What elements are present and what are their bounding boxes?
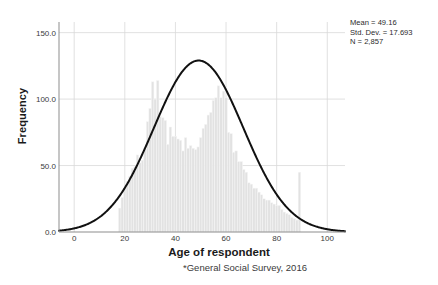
chart-footnote: *General Social Survey, 2016 bbox=[0, 262, 438, 273]
x-tick-label: 40 bbox=[171, 234, 180, 243]
sample-size-label: N = 2,857 bbox=[350, 37, 413, 47]
x-axis-title: Age of respondent bbox=[0, 246, 438, 258]
x-tick-label: 60 bbox=[222, 234, 231, 243]
std-dev-label: Std. Dev. = 17.693 bbox=[350, 28, 413, 38]
x-tick-label: 100 bbox=[321, 234, 334, 243]
statistics-annotation: Mean = 49.16 Std. Dev. = 17.693 N = 2,85… bbox=[350, 18, 413, 47]
histogram-figure: Frequency 0.050.0100.0150.0 020406080100… bbox=[0, 0, 438, 285]
x-tick-label: 80 bbox=[272, 234, 281, 243]
mean-label: Mean = 49.16 bbox=[350, 18, 413, 28]
x-tick-label: 20 bbox=[120, 234, 129, 243]
x-tick-label: 0 bbox=[72, 234, 76, 243]
